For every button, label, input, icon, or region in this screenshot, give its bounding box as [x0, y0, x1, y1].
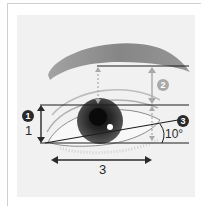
width-ratio-label: 3 [99, 163, 106, 176]
eyebrow [48, 43, 190, 80]
height-ratio-label: 1 [25, 124, 32, 137]
angle-label: 10° [165, 128, 183, 140]
pupil [89, 108, 107, 126]
iris-highlight [107, 124, 113, 130]
badge-2: 2 [157, 79, 169, 91]
angle-arc [160, 124, 164, 143]
badge-1: 1 [22, 110, 34, 122]
badge-3: 3 [177, 115, 189, 127]
